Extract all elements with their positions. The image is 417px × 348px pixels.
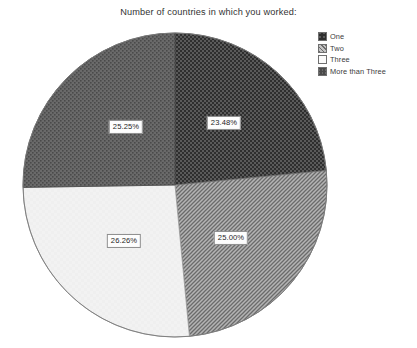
slice-value-label-more-than-three: 25.25% — [109, 120, 143, 134]
legend-label-two: Two — [330, 44, 344, 53]
legend-item-more-than-three[interactable]: More than Three — [318, 66, 414, 77]
chart-legend: One Two Three More than Three — [318, 31, 414, 77]
legend-item-three[interactable]: Three — [318, 54, 414, 65]
slice-value-label-three: 26.26% — [107, 234, 141, 248]
slice-value-label-two: 25.00% — [214, 231, 248, 245]
pie-slice-three[interactable] — [23, 185, 189, 337]
legend-swatch-more-than-three-icon — [318, 67, 327, 76]
pie-chart-figure: Number of countries in which you worked: — [0, 0, 417, 348]
pie-slice-more-than-three[interactable] — [23, 33, 175, 187]
pie-slices — [23, 33, 327, 337]
legend-swatch-three-icon — [318, 55, 327, 64]
legend-label-one: One — [330, 32, 344, 41]
pie-slice-one[interactable] — [175, 33, 326, 185]
legend-label-three: Three — [330, 55, 350, 64]
legend-label-more-than-three: More than Three — [330, 67, 386, 76]
legend-swatch-one-icon — [318, 32, 327, 41]
legend-item-one[interactable]: One — [318, 31, 414, 42]
legend-item-two[interactable]: Two — [318, 43, 414, 54]
legend-swatch-two-icon — [318, 44, 327, 53]
slice-value-label-one: 23.48% — [207, 116, 241, 130]
pie-slice-two[interactable] — [175, 171, 327, 337]
